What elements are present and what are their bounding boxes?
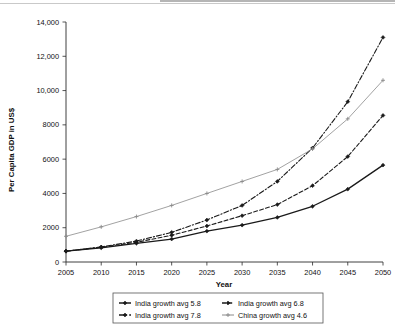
series-line [66,165,383,251]
y-axis-tick-group: 0200040006000800010,00012,00014,000 [36,18,66,267]
series-1 [64,163,385,253]
y-tick-label: 0 [55,258,59,267]
data-point-marker [123,313,127,317]
x-tick-label: 2005 [58,268,74,277]
data-point-marker [226,301,230,305]
x-tick-label: 2025 [199,268,215,277]
series-line [66,37,383,251]
y-tick-label: 4000 [43,189,59,198]
y-tick-label: 10,000 [36,86,59,95]
x-tick-label: 2010 [93,268,109,277]
data-point-marker [123,301,127,305]
data-point-marker [170,237,174,241]
line-chart: 0200040006000800010,00012,00014,000 2005… [0,0,395,330]
x-tick-label: 2020 [163,268,179,277]
legend-label-4: China growth avg 4.6 [238,311,307,320]
y-tick-label: 12,000 [36,52,59,61]
y-tick-label: 6000 [43,155,59,164]
series-2 [64,114,385,254]
y-tick-label: 8000 [43,120,59,129]
data-point-marker [205,224,209,228]
legend-label-2: India growth avg 6.8 [238,299,304,308]
x-tick-label: 2050 [375,268,391,277]
x-tick-label: 2015 [128,268,144,277]
data-point-marker [381,36,385,40]
data-point-marker [205,229,209,233]
x-axis-title: Year [216,280,232,289]
y-tick-label: 2000 [43,223,59,232]
data-point-marker [170,230,174,234]
x-tick-label: 2045 [340,268,356,277]
legend-label-3: India growth avg 7.8 [135,311,201,320]
data-point-marker [64,249,68,253]
chart-legend: India growth avg 5.8India growth avg 6.8… [113,293,323,323]
x-tick-label: 2035 [269,268,285,277]
data-point-marker [275,216,279,220]
data-point-marker [205,218,209,222]
x-tick-label: 2040 [304,268,320,277]
series-4 [64,78,385,238]
y-tick-label: 14,000 [36,18,59,27]
series-group [64,36,385,254]
x-axis-tick-group: 2005201020152020202520302035204020452050 [58,262,391,277]
data-point-marker [240,214,244,218]
y-axis-title: Per Capita GDP in US$ [7,107,16,192]
x-tick-label: 2030 [234,268,250,277]
data-point-marker [240,223,244,227]
series-line [66,115,383,251]
legend-label-1: India growth avg 5.8 [135,299,201,308]
